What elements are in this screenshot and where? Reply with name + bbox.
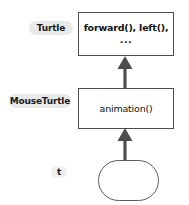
arrow-instance-to-mouseturtle-icon (115, 127, 135, 161)
label-turtle-text: Turtle (37, 24, 65, 33)
turtle-methods-line-1: forward(), left(), (84, 22, 169, 33)
diagram-canvas: Turtle MouseTurtle t forward(), left(), … (0, 0, 189, 205)
node-mouseturtle-class: animation() (78, 88, 174, 129)
label-instance-t: t (51, 166, 67, 178)
node-turtle-class: forward(), left(), ... (78, 12, 174, 56)
turtle-methods-line-2: ... (84, 34, 169, 46)
node-t-instance (98, 160, 159, 201)
node-turtle-class-text: forward(), left(), ... (80, 22, 173, 46)
label-instance-t-text: t (57, 168, 61, 177)
label-mouseturtle: MouseTurtle (9, 94, 71, 108)
label-mouseturtle-text: MouseTurtle (10, 97, 70, 106)
mouseturtle-methods-line-1: animation() (100, 103, 153, 114)
arrow-mouseturtle-to-turtle-icon (115, 55, 135, 89)
node-mouseturtle-class-text: animation() (96, 103, 157, 115)
label-turtle: Turtle (29, 21, 73, 35)
